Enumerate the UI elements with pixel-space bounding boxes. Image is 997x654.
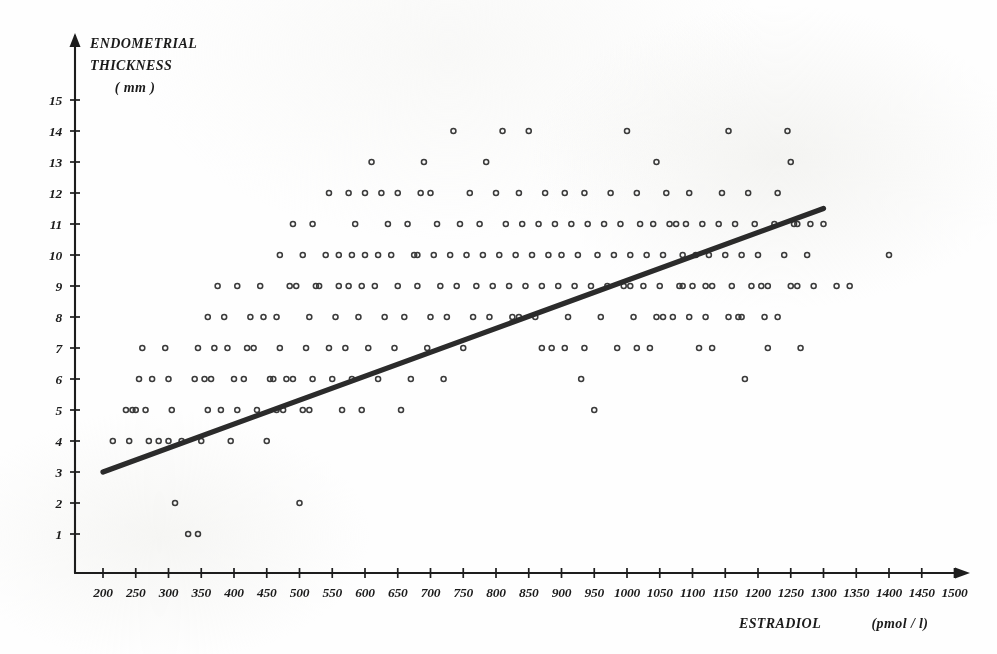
data-point bbox=[726, 315, 731, 320]
data-point bbox=[595, 253, 600, 258]
data-point bbox=[625, 129, 630, 134]
data-point bbox=[457, 222, 462, 227]
x-axis-tick-label: 650 bbox=[388, 585, 408, 600]
data-point bbox=[379, 191, 384, 196]
data-point bbox=[726, 129, 731, 134]
data-point bbox=[140, 346, 145, 351]
data-point bbox=[569, 222, 574, 227]
data-point bbox=[667, 222, 672, 227]
data-point bbox=[389, 253, 394, 258]
data-point bbox=[683, 222, 688, 227]
y-axis-title-line: ENDOMETRIAL bbox=[89, 36, 197, 51]
data-point bbox=[241, 377, 246, 382]
data-point bbox=[474, 284, 479, 289]
data-point bbox=[723, 253, 728, 258]
data-point bbox=[549, 346, 554, 351]
data-point bbox=[739, 253, 744, 258]
data-point bbox=[205, 315, 210, 320]
data-point bbox=[592, 408, 597, 413]
x-axis-tick-label: 600 bbox=[355, 585, 375, 600]
data-point bbox=[356, 315, 361, 320]
data-point bbox=[484, 160, 489, 165]
data-point bbox=[703, 315, 708, 320]
data-point bbox=[235, 408, 240, 413]
data-point bbox=[572, 284, 577, 289]
data-point bbox=[431, 253, 436, 258]
data-point bbox=[664, 191, 669, 196]
data-point bbox=[697, 346, 702, 351]
data-point bbox=[428, 315, 433, 320]
x-axis-tick-label: 700 bbox=[421, 585, 441, 600]
data-point bbox=[654, 160, 659, 165]
data-point bbox=[435, 222, 440, 227]
data-point bbox=[602, 222, 607, 227]
data-point bbox=[163, 346, 168, 351]
data-point bbox=[290, 222, 295, 227]
data-point bbox=[290, 377, 295, 382]
data-point bbox=[785, 129, 790, 134]
data-point bbox=[657, 284, 662, 289]
x-axis-tick-label: 800 bbox=[486, 585, 506, 600]
x-axis-tick-label: 1100 bbox=[680, 585, 706, 600]
x-axis-arrow bbox=[955, 568, 970, 579]
data-point bbox=[821, 222, 826, 227]
x-axis-tick-label: 1400 bbox=[876, 585, 902, 600]
data-point bbox=[628, 253, 633, 258]
x-axis-tick-label: 850 bbox=[519, 585, 539, 600]
data-point bbox=[438, 284, 443, 289]
data-point bbox=[202, 377, 207, 382]
data-point bbox=[788, 160, 793, 165]
data-point bbox=[385, 222, 390, 227]
data-point bbox=[638, 222, 643, 227]
data-point bbox=[654, 315, 659, 320]
data-point bbox=[300, 408, 305, 413]
x-axis-tick-label: 1500 bbox=[942, 585, 968, 600]
data-point bbox=[588, 284, 593, 289]
data-point bbox=[277, 253, 282, 258]
x-axis-tick-label: 450 bbox=[256, 585, 277, 600]
data-point bbox=[307, 315, 312, 320]
data-point bbox=[808, 222, 813, 227]
data-point bbox=[235, 284, 240, 289]
data-point bbox=[634, 191, 639, 196]
data-point bbox=[330, 377, 335, 382]
y-axis-tick-label: 10 bbox=[49, 248, 62, 263]
data-point bbox=[579, 377, 584, 382]
x-axis-tick-label: 350 bbox=[191, 585, 212, 600]
data-point bbox=[467, 191, 472, 196]
data-point bbox=[497, 253, 502, 258]
data-point bbox=[218, 408, 223, 413]
data-point bbox=[310, 377, 315, 382]
data-point bbox=[494, 191, 499, 196]
data-point bbox=[186, 532, 191, 537]
data-point bbox=[834, 284, 839, 289]
data-point bbox=[346, 191, 351, 196]
data-point bbox=[562, 191, 567, 196]
x-axis-tick-label: 550 bbox=[323, 585, 343, 600]
data-point bbox=[166, 439, 171, 444]
data-point bbox=[703, 284, 708, 289]
data-point bbox=[805, 253, 810, 258]
data-point bbox=[520, 222, 525, 227]
data-point bbox=[399, 408, 404, 413]
data-point bbox=[150, 377, 155, 382]
x-axis-tick-label: 1350 bbox=[843, 585, 869, 600]
data-point bbox=[480, 253, 485, 258]
y-axis-tick-label: 11 bbox=[50, 217, 62, 232]
data-point bbox=[461, 346, 466, 351]
data-point bbox=[765, 284, 770, 289]
data-point bbox=[710, 346, 715, 351]
y-axis-tick-label: 13 bbox=[49, 155, 62, 170]
data-point bbox=[359, 284, 364, 289]
data-point bbox=[661, 253, 666, 258]
data-point bbox=[395, 284, 400, 289]
data-point bbox=[811, 284, 816, 289]
data-point bbox=[363, 253, 368, 258]
x-axis-tick-label: 1200 bbox=[745, 585, 771, 600]
data-point bbox=[507, 284, 512, 289]
data-point bbox=[264, 439, 269, 444]
data-point bbox=[376, 377, 381, 382]
data-point bbox=[133, 408, 138, 413]
data-point bbox=[611, 253, 616, 258]
data-point bbox=[775, 191, 780, 196]
